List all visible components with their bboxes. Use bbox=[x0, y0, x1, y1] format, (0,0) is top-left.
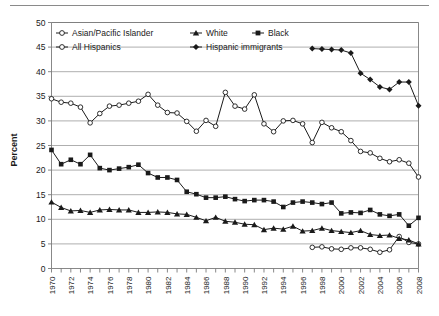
data-point bbox=[69, 157, 74, 162]
y-tick-label: 5 bbox=[41, 239, 46, 249]
y-tick-label: 10 bbox=[36, 214, 46, 224]
legend-marker-filled-square bbox=[256, 31, 261, 36]
data-point bbox=[368, 247, 373, 252]
line-chart: 05101520253035404550 1970197219741976197… bbox=[0, 0, 439, 316]
legend-marker-open-circle bbox=[60, 45, 65, 50]
data-point bbox=[107, 168, 112, 173]
data-point bbox=[49, 96, 54, 101]
data-point bbox=[136, 99, 141, 104]
y-axis-ticks: 05101520253035404550 bbox=[36, 18, 51, 274]
data-point bbox=[242, 107, 247, 112]
data-point bbox=[300, 122, 305, 127]
data-point bbox=[407, 223, 412, 228]
data-point bbox=[59, 162, 64, 167]
legend-item-black[interactable]: Black bbox=[252, 28, 290, 38]
data-point bbox=[387, 159, 392, 164]
data-point bbox=[320, 120, 325, 125]
data-point bbox=[194, 129, 199, 134]
y-tick-label: 0 bbox=[41, 264, 46, 274]
legend-marker-filled-diamond bbox=[193, 44, 199, 50]
data-point bbox=[349, 246, 354, 251]
x-axis-ticks: 1970197219741976197819801982198419861988… bbox=[48, 269, 424, 295]
data-point bbox=[310, 200, 315, 205]
data-point bbox=[407, 161, 412, 166]
x-tick-label: 1982 bbox=[164, 276, 173, 294]
legend-item-all-hispanics[interactable]: All Hispanics bbox=[56, 42, 121, 52]
data-point bbox=[281, 205, 286, 210]
x-tick-label: 1988 bbox=[222, 276, 231, 294]
data-point bbox=[281, 119, 286, 124]
data-point bbox=[378, 250, 383, 255]
data-point bbox=[348, 50, 354, 56]
data-point bbox=[48, 199, 54, 204]
series-all-hispanics bbox=[49, 90, 421, 179]
data-point bbox=[126, 165, 131, 170]
data-point bbox=[184, 119, 189, 124]
data-point bbox=[271, 199, 276, 204]
data-point bbox=[416, 216, 421, 221]
data-point bbox=[223, 194, 228, 199]
data-point bbox=[358, 246, 363, 251]
data-point bbox=[310, 245, 315, 250]
data-point bbox=[49, 148, 54, 153]
y-tick-label: 30 bbox=[36, 116, 46, 126]
x-tick-label: 2002 bbox=[357, 276, 366, 294]
x-tick-label: 1984 bbox=[183, 276, 192, 294]
x-tick-label: 1994 bbox=[279, 276, 288, 294]
data-point bbox=[88, 121, 93, 126]
x-tick-label: 1980 bbox=[144, 276, 153, 294]
data-point bbox=[97, 166, 102, 171]
x-tick-label: 1992 bbox=[260, 276, 269, 294]
data-point bbox=[320, 202, 325, 207]
series-white bbox=[48, 199, 421, 246]
x-tick-label: 1976 bbox=[106, 276, 115, 294]
data-point bbox=[165, 175, 170, 180]
data-point bbox=[416, 175, 421, 180]
data-point bbox=[107, 104, 112, 109]
data-point bbox=[78, 162, 83, 167]
data-point bbox=[146, 92, 151, 97]
data-point bbox=[203, 218, 209, 223]
y-axis-title-text: Percent bbox=[9, 133, 19, 166]
data-point bbox=[223, 90, 228, 95]
data-point bbox=[368, 151, 373, 156]
data-point bbox=[358, 149, 363, 154]
series-black bbox=[49, 148, 421, 228]
data-point bbox=[387, 248, 392, 253]
chart-legend: Asian/Pacific IslanderWhiteBlackAll Hisp… bbox=[56, 28, 290, 52]
data-point bbox=[175, 178, 180, 183]
series-line bbox=[312, 49, 418, 106]
data-point bbox=[78, 105, 83, 110]
data-point bbox=[117, 166, 122, 171]
y-tick-label: 20 bbox=[36, 165, 46, 175]
data-point bbox=[233, 104, 238, 109]
legend-item-white[interactable]: White bbox=[190, 28, 228, 38]
data-point bbox=[88, 153, 93, 158]
data-point bbox=[320, 245, 325, 250]
y-tick-label: 50 bbox=[36, 18, 46, 28]
data-point bbox=[349, 210, 354, 215]
data-point bbox=[329, 125, 334, 130]
data-point bbox=[233, 197, 238, 202]
y-tick-label: 45 bbox=[36, 42, 46, 52]
x-tick-label: 1978 bbox=[125, 276, 134, 294]
series-line bbox=[52, 150, 419, 226]
data-point bbox=[406, 79, 412, 85]
x-tick-label: 1996 bbox=[299, 276, 308, 294]
y-tick-label: 15 bbox=[36, 190, 46, 200]
series-asian-pacific-islander bbox=[310, 234, 421, 254]
data-point bbox=[310, 140, 315, 145]
data-point bbox=[368, 208, 373, 213]
data-point bbox=[378, 212, 383, 217]
x-tick-label: 2006 bbox=[395, 276, 404, 294]
data-point bbox=[58, 205, 64, 210]
data-point bbox=[329, 200, 334, 205]
data-point bbox=[194, 192, 199, 197]
x-tick-label: 2004 bbox=[376, 276, 385, 294]
data-point bbox=[117, 103, 122, 108]
data-point bbox=[204, 195, 209, 200]
grid-lines bbox=[52, 23, 419, 244]
data-point bbox=[300, 199, 305, 204]
legend-item-asian-pacific-islander[interactable]: Asian/Pacific Islander bbox=[56, 28, 153, 38]
data-point bbox=[213, 214, 219, 219]
